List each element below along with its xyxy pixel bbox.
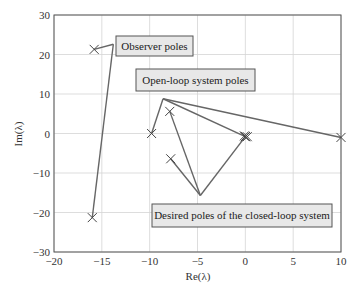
annotation-desired-poles: Desired poles of the closed-loop system [152, 204, 332, 227]
x-axis-label: Re(λ) [186, 270, 211, 283]
y-tick-label: −20 [33, 207, 51, 219]
annotation-label-desired: Desired poles of the closed-loop system [154, 209, 330, 221]
x-tick-label: −5 [192, 255, 204, 267]
x-tick-label: 5 [290, 255, 296, 267]
annotation-leader-line [170, 111, 201, 195]
annotation-leader-line [163, 99, 341, 138]
y-tick-label: 30 [39, 9, 51, 21]
annotation-leader-line [200, 137, 245, 196]
annotation-leader-line [163, 99, 245, 137]
annotation-leader-line [92, 44, 113, 217]
y-tick-label: 20 [39, 49, 51, 61]
annotation-label-observer: Observer poles [121, 40, 187, 52]
y-tick-label: −10 [33, 167, 51, 179]
pole-location-chart: −20−15−10−50510 −30−20−100102030 Observe… [0, 0, 362, 289]
pole-marker-x-icon [90, 45, 99, 54]
annotation-label-open-loop: Open-loop system poles [142, 74, 248, 86]
y-tick-label: 10 [39, 88, 51, 100]
x-tick-labels: −20−15−10−50510 [45, 255, 347, 267]
annotation-open-loop-poles: Open-loop system poles [136, 69, 255, 91]
y-tick-labels: −30−20−100102030 [33, 9, 51, 258]
y-tick-label: 0 [45, 128, 51, 140]
y-axis-label: Im(λ) [12, 121, 25, 146]
y-tick-label: −30 [33, 246, 51, 258]
x-tick-label: −10 [141, 255, 159, 267]
x-tick-label: 0 [243, 255, 249, 267]
annotation-leader-line [152, 99, 163, 134]
x-tick-label: 10 [336, 255, 348, 267]
pole-marker-x-icon [166, 154, 175, 163]
pole-marker-x-icon [165, 107, 174, 116]
annotation-observer-poles: Observer poles [116, 36, 193, 56]
x-tick-label: −15 [93, 255, 111, 267]
annotation-leader-line [171, 159, 201, 196]
